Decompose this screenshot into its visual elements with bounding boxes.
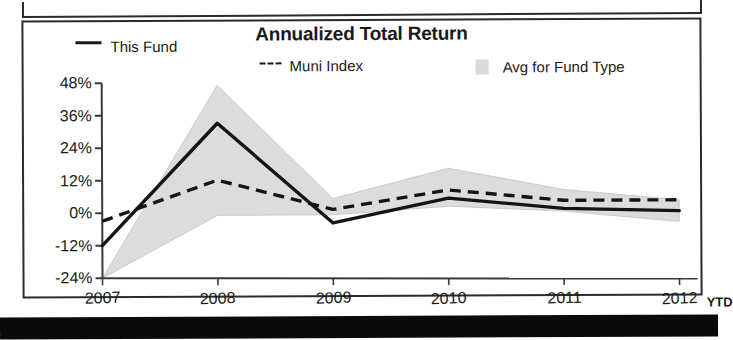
y-tick-label: 0% bbox=[34, 204, 92, 222]
x-tick-label: 2012 bbox=[662, 289, 698, 308]
chart-panel: Annualized Total Return This Fund Muni I… bbox=[21, 18, 702, 299]
x-axis-ytd-label: YTD bbox=[707, 294, 733, 309]
band-avg-for-fund-type bbox=[102, 83, 680, 278]
x-tick-label: 2010 bbox=[431, 289, 467, 308]
y-tick-label: -12% bbox=[34, 237, 92, 255]
y-tick-label: 12% bbox=[34, 172, 92, 190]
x-tick-label: 2009 bbox=[315, 289, 351, 308]
y-tick-label: 36% bbox=[34, 107, 92, 125]
plot-svg bbox=[23, 20, 704, 301]
x-tick-label: 2008 bbox=[200, 289, 236, 308]
x-tick-label: 2007 bbox=[85, 289, 121, 308]
plot-area: 48%36%24%12%0%-12%-24% 20072008200920102… bbox=[23, 20, 704, 301]
y-tick-label: -24% bbox=[34, 269, 92, 287]
x-tick-label: 2011 bbox=[547, 289, 582, 308]
y-tick-label: 48% bbox=[34, 74, 92, 92]
previous-section-box-edge bbox=[22, 0, 702, 18]
y-tick-label: 24% bbox=[34, 139, 92, 157]
scan-artifact-bar bbox=[0, 314, 718, 339]
